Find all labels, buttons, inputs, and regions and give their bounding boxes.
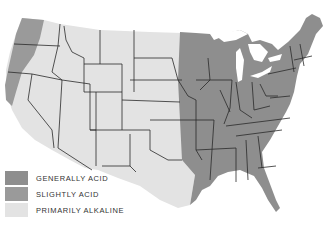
legend-item-primarily-alkaline: PRIMARILY ALKALINE [5,202,124,218]
legend-item-slightly-acid: SLIGHTLY ACID [5,186,124,202]
legend-swatch-generally-acid [5,171,28,185]
legend-label: SLIGHTLY ACID [36,190,99,199]
legend-swatch-slightly-acid [5,187,28,201]
region-eastern-acid [178,14,323,212]
legend-label: GENERALLY ACID [36,174,108,183]
legend-label: PRIMARILY ALKALINE [36,206,124,215]
map-legend: GENERALLY ACID SLIGHTLY ACID PRIMARILY A… [5,170,124,218]
legend-item-generally-acid: GENERALLY ACID [5,170,124,186]
legend-swatch-primarily-alkaline [5,203,28,217]
